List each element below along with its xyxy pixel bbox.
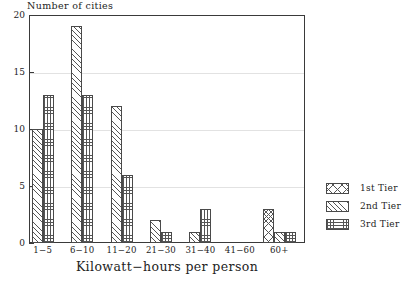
legend-item: 2nd Tier [326, 197, 401, 215]
bar [285, 232, 296, 243]
bar [82, 95, 93, 243]
legend-item: 1st Tier [326, 179, 401, 197]
x-tick-label: 60+ [256, 246, 302, 255]
bars-layer [29, 15, 305, 243]
bar-group [187, 15, 226, 243]
bar [189, 232, 200, 243]
legend-label: 1st Tier [360, 183, 398, 193]
legend-label: 2nd Tier [360, 201, 401, 211]
bar [274, 232, 285, 243]
y-tick-label: 10 [3, 125, 25, 134]
x-axis-title: Kilowatt−hours per person [29, 259, 305, 274]
bar-group [29, 15, 68, 243]
bar-group [108, 15, 147, 243]
bar [150, 220, 161, 243]
chart-legend: 1st Tier2nd Tier3rd Tier [326, 179, 401, 233]
y-tick-mark [29, 243, 34, 244]
bar [263, 209, 274, 243]
bar [43, 95, 54, 243]
legend-label: 3rd Tier [360, 219, 400, 229]
bar [200, 209, 211, 243]
bar-group [226, 15, 265, 243]
bar [71, 26, 82, 243]
y-tick-label: 5 [3, 182, 25, 191]
y-tick-label: 15 [3, 68, 25, 77]
y-axis-title: Number of cities [27, 0, 113, 11]
legend-swatch-icon [326, 201, 349, 212]
bar [122, 175, 133, 243]
bar-group [68, 15, 107, 243]
bar-chart-figure: Number of cities 05101520 1−56−1011−2021… [0, 0, 414, 285]
bar [111, 106, 122, 243]
bar [161, 232, 172, 243]
bar [32, 129, 43, 243]
bar-group [147, 15, 186, 243]
legend-swatch-icon [326, 183, 349, 194]
legend-swatch-icon [326, 219, 349, 230]
bar-group [266, 15, 305, 243]
legend-item: 3rd Tier [326, 215, 401, 233]
y-tick-label: 20 [3, 11, 25, 20]
